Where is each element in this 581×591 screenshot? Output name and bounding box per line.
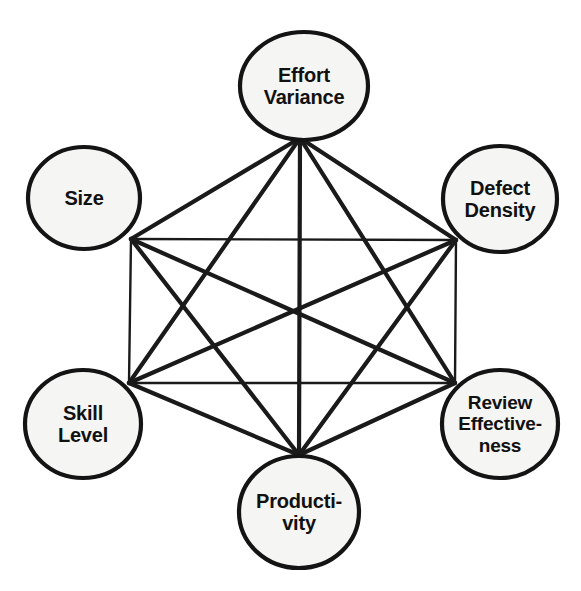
relationship-diagram: Effort VarianceSizeDefect DensitySkill L… — [0, 0, 581, 591]
edge-effort-variance-to-defect-density — [300, 138, 456, 240]
edge-review-effectiveness-to-productivity — [299, 383, 455, 455]
edge-effort-variance-to-productivity — [299, 138, 300, 455]
node-circle-defect-density[interactable] — [443, 146, 557, 252]
node-layer — [25, 32, 558, 568]
edge-effort-variance-to-size — [131, 138, 300, 239]
edge-layer — [129, 138, 456, 455]
edge-size-to-defect-density — [131, 239, 456, 240]
node-circle-size[interactable] — [28, 147, 140, 249]
node-circle-review-effectiveness[interactable] — [442, 370, 558, 478]
node-circle-skill-level[interactable] — [25, 370, 141, 478]
edge-defect-density-to-review-effectiveness — [455, 240, 456, 383]
edge-size-to-skill-level — [129, 239, 131, 383]
graph-canvas — [0, 0, 581, 591]
node-circle-productivity[interactable] — [239, 456, 359, 568]
node-circle-effort-variance[interactable] — [240, 32, 368, 140]
